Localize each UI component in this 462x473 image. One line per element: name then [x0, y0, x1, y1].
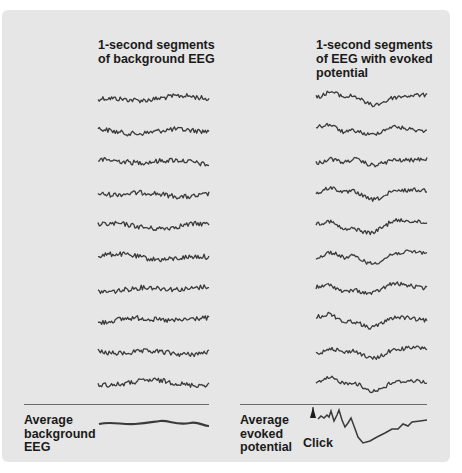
average-evoked-potential-trace — [318, 410, 427, 443]
background-eeg-traces — [98, 94, 209, 388]
eeg-traces — [0, 0, 462, 473]
background-eeg-segment — [98, 158, 209, 166]
average-evoked-label: Average evoked potential — [240, 414, 292, 455]
background-eeg-segment — [98, 285, 209, 294]
avg-ev-line3: potential — [240, 441, 292, 455]
evoked-eeg-segment — [316, 187, 427, 202]
evoked-eeg-segment — [316, 219, 427, 235]
evoked-eeg-traces — [316, 91, 427, 392]
background-eeg-segment — [98, 190, 209, 199]
background-eeg-segment — [98, 316, 209, 325]
background-eeg-segment — [98, 349, 209, 357]
background-eeg-segment — [98, 378, 209, 387]
click-label: Click — [303, 436, 333, 450]
evoked-eeg-segment — [316, 346, 427, 359]
evoked-eeg-segment — [316, 282, 427, 294]
evoked-eeg-segment — [316, 376, 427, 392]
avg-ev-line2: evoked — [240, 428, 292, 442]
evoked-eeg-segment — [316, 91, 427, 107]
evoked-eeg-segment — [316, 250, 427, 264]
right-divider — [240, 404, 427, 405]
evoked-eeg-segment — [316, 312, 427, 329]
background-eeg-segment — [98, 252, 209, 262]
average-background-eeg-trace — [99, 421, 209, 426]
background-eeg-segment — [98, 94, 209, 103]
evoked-eeg-segment — [316, 124, 427, 136]
evoked-eeg-segment — [316, 157, 427, 167]
background-eeg-segment — [98, 127, 209, 136]
average-background-label: Average background EEG — [24, 414, 96, 455]
avg-bg-line3: EEG — [24, 441, 96, 455]
background-eeg-segment — [98, 221, 209, 230]
avg-bg-line2: background — [24, 428, 96, 442]
left-divider — [24, 404, 209, 405]
avg-bg-line1: Average — [24, 414, 96, 428]
avg-ev-line1: Average — [240, 414, 292, 428]
